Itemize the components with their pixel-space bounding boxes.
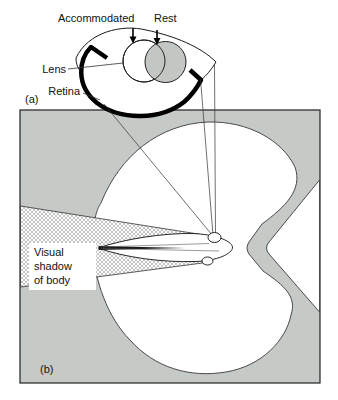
shadow-label-line3: of body [34, 274, 70, 287]
lens-rest-circle [145, 42, 186, 83]
panel-a-label: (a) [25, 93, 38, 106]
retina-label: Retina [36, 85, 80, 98]
fish-eye [208, 233, 221, 243]
diagram-canvas [0, 0, 338, 400]
accommodated-label: Accommodated [58, 12, 134, 25]
panel-b-label: (b) [40, 363, 53, 376]
rest-label: Rest [154, 12, 177, 25]
shadow-label-line1: Visual [34, 246, 64, 259]
eye-diagram [68, 28, 216, 116]
lens-label: Lens [36, 63, 66, 76]
fish-mouth [202, 257, 213, 265]
shadow-label-line2: shadow [34, 260, 72, 273]
eye-visual-shadow-figure: Accommodated Rest Lens Retina (a) (b) Vi… [0, 0, 338, 400]
